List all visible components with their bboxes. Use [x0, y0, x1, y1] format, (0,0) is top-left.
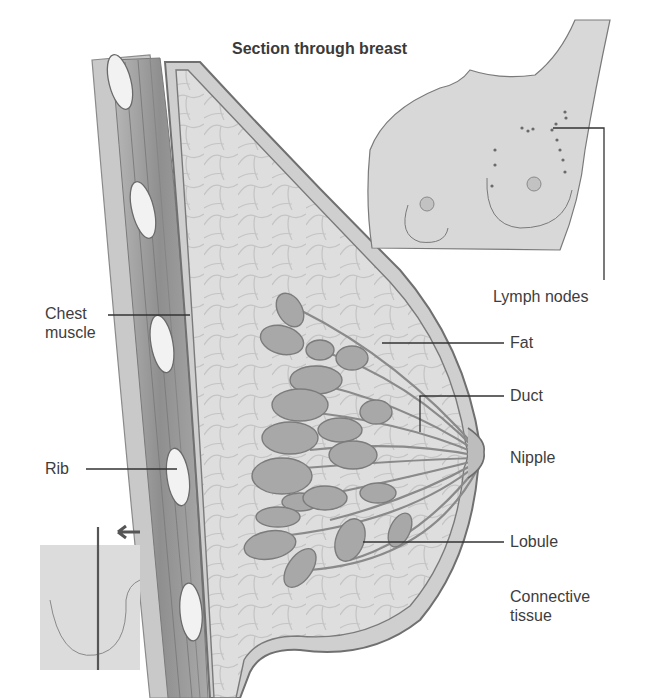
breast-section-diagram: Section through breast Chest muscle Rib …	[0, 0, 649, 698]
nipple	[468, 428, 484, 478]
label-fat: Fat	[510, 333, 533, 352]
label-chest-muscle: Chest muscle	[45, 304, 96, 342]
label-lobule: Lobule	[510, 532, 558, 551]
side-view-inset	[40, 526, 140, 670]
label-duct: Duct	[510, 386, 543, 405]
label-nipple: Nipple	[510, 448, 555, 467]
label-rib: Rib	[45, 459, 69, 478]
diagram-title: Section through breast	[232, 40, 407, 58]
label-connective-tissue: Connective tissue	[510, 587, 590, 625]
label-lymph-nodes: Lymph nodes	[493, 287, 588, 306]
